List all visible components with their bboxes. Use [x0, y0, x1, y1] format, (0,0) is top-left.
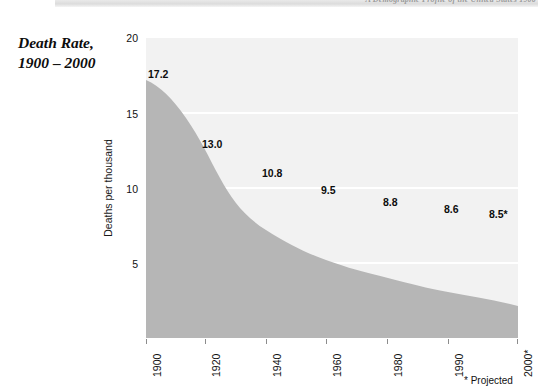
y-tick-label-5: 5	[112, 259, 138, 270]
y-tick-label-10: 10	[112, 184, 138, 195]
data-label-1920: 13.0	[202, 138, 222, 150]
y-tick-label-15: 15	[112, 109, 138, 120]
data-label-1900: 17.2	[148, 68, 168, 80]
x-tick-label-1980: 1980	[392, 354, 404, 377]
x-tick-mark-1990	[448, 339, 449, 344]
death-rate-area-chart: Deaths per thousand 20 15 10 5 17.2 13.0…	[0, 0, 538, 391]
data-label-1960: 9.5	[321, 184, 336, 196]
data-label-2000: 8.5*	[489, 208, 508, 220]
x-tick-mark-1900	[146, 339, 147, 344]
x-tick-mark-1920	[205, 339, 206, 344]
x-tick-label-1990: 1990	[453, 354, 465, 377]
data-label-1940: 10.8	[262, 167, 282, 179]
x-tick-label-1960: 1960	[331, 354, 343, 377]
x-tick-label-1920: 1920	[210, 354, 222, 377]
chart-footnote: * Projected	[464, 375, 513, 386]
y-tick-label-20: 20	[112, 33, 138, 44]
data-label-1990: 8.6	[444, 203, 459, 215]
area-fill	[146, 80, 518, 338]
x-tick-mark-1980	[387, 339, 388, 344]
x-tick-mark-2000	[517, 339, 518, 344]
x-tick-label-1940: 1940	[271, 354, 283, 377]
data-label-1980: 8.8	[383, 196, 398, 208]
x-tick-mark-1960	[326, 339, 327, 344]
x-tick-label-2000: 2000*	[522, 350, 534, 377]
x-tick-label-1900: 1900	[151, 354, 163, 377]
x-tick-mark-1940	[266, 339, 267, 344]
